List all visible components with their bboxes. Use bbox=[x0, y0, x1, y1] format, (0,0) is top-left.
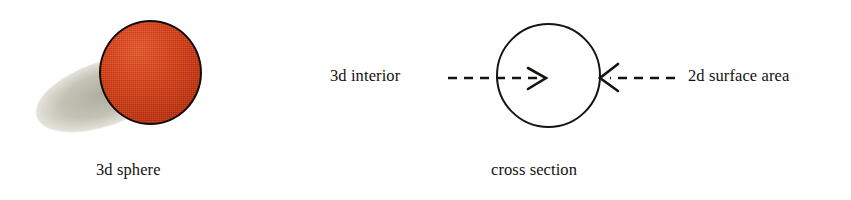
caption-cross-section: cross section bbox=[491, 160, 577, 180]
panel-cross-section: cross section bbox=[300, 0, 851, 200]
annotation-label-2d-surface-area: 2d surface area bbox=[688, 66, 789, 86]
panel-3d-sphere: 3d sphere bbox=[0, 0, 300, 200]
figure-canvas: 3d sphere cross section 3d interior 2d s… bbox=[0, 0, 851, 200]
sphere-shape bbox=[99, 20, 202, 125]
caption-3d-sphere: 3d sphere bbox=[96, 160, 161, 180]
annotation-label-3d-interior: 3d interior bbox=[330, 66, 400, 86]
arrow-head-2d-surface-area bbox=[600, 64, 618, 91]
